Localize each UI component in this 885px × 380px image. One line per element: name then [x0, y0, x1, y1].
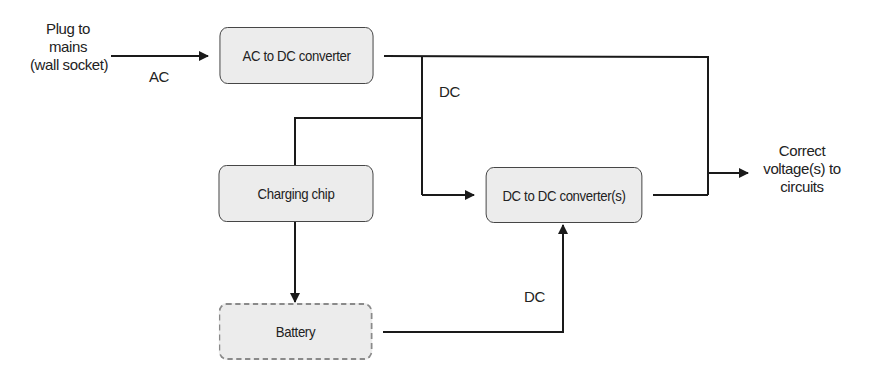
output-label-line1: Correct — [752, 142, 852, 160]
charging-chip-feed-line — [295, 118, 422, 165]
power-supply-diagram: Plug to mains (wall socket) AC AC to DC … — [0, 0, 885, 380]
input-label: Plug to mains (wall socket) — [30, 20, 106, 74]
output-label-line2: voltage(s) to — [752, 160, 852, 178]
output-label-line3: circuits — [752, 178, 852, 196]
input-label-line3: (wall socket) — [30, 56, 106, 74]
dc-to-dc-converter-box: DC to DC converter(s) — [486, 167, 643, 223]
input-label-line2: mains — [30, 38, 106, 56]
battery-box: Battery — [219, 303, 373, 360]
ac-to-dc-converter-box: AC to DC converter — [220, 27, 374, 84]
dc-battery-label: DC — [524, 288, 545, 306]
output-label: Correct voltage(s) to circuits — [752, 142, 852, 196]
charging-chip-box: Charging chip — [219, 165, 374, 222]
battery-output-line — [383, 225, 563, 332]
dc-top-label: DC — [439, 83, 460, 101]
ac-label: AC — [149, 68, 169, 86]
input-label-line1: Plug to — [30, 20, 106, 38]
